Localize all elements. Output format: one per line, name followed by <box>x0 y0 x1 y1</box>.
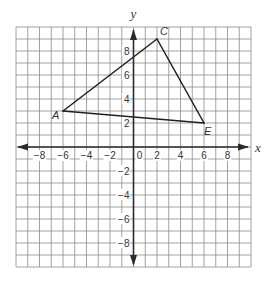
y-axis-up-arrow-icon <box>130 29 137 40</box>
y-axis-label: y <box>129 6 137 21</box>
x-axis-right-arrow-icon <box>238 144 249 151</box>
axes: x y <box>17 6 261 266</box>
vertex-label-A: A <box>51 109 59 121</box>
y-tick-label: 6 <box>124 70 130 81</box>
y-tick-label: −6 <box>118 214 130 225</box>
y-tick-label: 8 <box>124 46 130 57</box>
y-tick-label: −8 <box>118 238 130 249</box>
x-tick-label: 2 <box>154 150 160 161</box>
x-tick-label: 0 <box>137 150 143 161</box>
y-tick-label: −2 <box>118 166 130 177</box>
x-tick-label: 4 <box>178 150 184 161</box>
x-tick-label: −6 <box>57 150 69 161</box>
x-tick-label: −2 <box>104 150 116 161</box>
x-axis-left-arrow-icon <box>17 144 28 151</box>
y-tick-label: 2 <box>124 118 130 129</box>
x-axis-label: x <box>254 140 261 155</box>
x-tick-label: 8 <box>225 150 231 161</box>
x-tick-label: 6 <box>201 150 207 161</box>
y-axis-down-arrow-icon <box>130 255 137 266</box>
vertex-label-E: E <box>204 125 212 137</box>
vertex-label-C: C <box>160 25 168 37</box>
x-tick-label: −8 <box>34 150 46 161</box>
coordinate-plane: x y −8−6−4−2024688642−2−4−6−8 ACE <box>0 0 275 282</box>
x-tick-label: −4 <box>81 150 93 161</box>
y-tick-label: 4 <box>124 94 130 105</box>
y-tick-label: −4 <box>118 190 130 201</box>
